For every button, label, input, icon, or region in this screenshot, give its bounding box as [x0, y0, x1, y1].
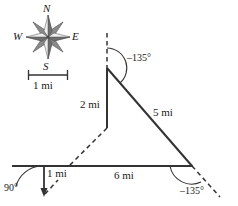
segment-6mi-label: 6 mi	[114, 170, 134, 181]
segment-5mi-label: 5 mi	[153, 107, 173, 118]
bottom-left-angle-label: 90°	[4, 183, 18, 193]
bottom-left-angle-arc	[16, 166, 40, 186]
dashed-diagonal-line	[68, 128, 107, 167]
apex-angle-label: –135°	[127, 53, 151, 63]
bottom-right-angle-arc	[170, 166, 201, 184]
compass-label-south: S	[43, 61, 49, 72]
dashed-stub-line	[45, 180, 58, 194]
bottom-right-angle-label: –135°	[180, 186, 204, 196]
compass-rose-graphic	[26, 15, 70, 59]
vector-path-diagram: N S E W 1 mi 2 mi 5 mi 6 mi 1 mi –135° 9…	[0, 0, 238, 206]
compass-hub	[46, 35, 49, 38]
compass-label-north: N	[43, 3, 50, 14]
apex-angle-arc	[107, 48, 127, 83]
segment-1mi-label: 1 mi	[47, 168, 67, 179]
scale-bar-label: 1 mi	[33, 80, 53, 91]
segment-2mi-label: 2 mi	[80, 99, 100, 110]
compass-label-east: E	[72, 31, 79, 42]
compass-label-west: W	[13, 31, 22, 42]
